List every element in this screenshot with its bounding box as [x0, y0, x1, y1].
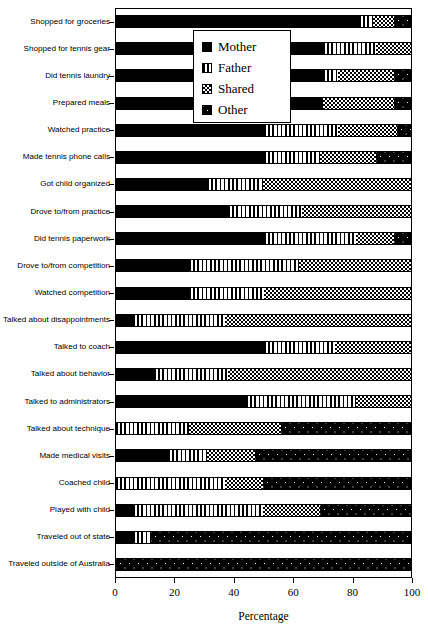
y-axis-tick — [109, 130, 114, 131]
legend-item: Shared — [202, 78, 290, 99]
bar-row — [115, 205, 412, 218]
bar-row — [115, 341, 412, 354]
legend-label: Father — [218, 61, 251, 74]
bar-segment-father — [246, 395, 356, 408]
bar-segment-shared — [356, 232, 395, 245]
y-axis-tick — [109, 76, 114, 77]
legend-swatch-icon — [202, 84, 212, 94]
legend-item: Father — [202, 57, 290, 78]
bar-segment-mother — [115, 395, 246, 408]
bar-segment-father — [168, 449, 207, 462]
bar-segment-shared — [376, 42, 412, 55]
bar-segment-father — [133, 531, 151, 544]
bar-row — [115, 15, 412, 28]
legend-swatch-icon — [202, 42, 212, 52]
x-axis-tick-label: 80 — [347, 586, 358, 598]
y-axis-tick — [109, 483, 114, 484]
bar-row — [115, 477, 412, 490]
category-label: Did tennis laundry — [0, 71, 110, 81]
y-axis-tick — [109, 239, 114, 240]
bar-segment-shared — [373, 15, 394, 28]
category-label: Traveled outside of Australia — [0, 559, 110, 569]
bar-segment-shared — [302, 205, 412, 218]
category-label: Got child organized — [0, 179, 110, 189]
legend-swatch-icon — [202, 105, 212, 115]
bar-segment-shared — [338, 69, 394, 82]
category-label: Talked about technique — [0, 424, 110, 434]
legend-label: Shared — [218, 82, 254, 95]
category-label: Played with child — [0, 505, 110, 515]
bar-row — [115, 151, 412, 164]
y-axis-tick — [109, 103, 114, 104]
bar-segment-mother — [115, 341, 264, 354]
category-label: Prepared meals — [0, 98, 110, 108]
bar-segment-other — [263, 477, 412, 490]
bar-row — [115, 287, 412, 300]
bar-segment-shared — [225, 314, 412, 327]
bar-segment-shared — [299, 259, 412, 272]
bar-segment-father — [323, 69, 338, 82]
y-axis-tick — [109, 184, 114, 185]
y-axis-tick — [109, 429, 114, 430]
legend-label: Mother — [218, 40, 256, 53]
bar-segment-shared — [207, 449, 255, 462]
bar-segment-mother — [115, 151, 264, 164]
bar-segment-other — [115, 558, 412, 571]
bar-row — [115, 178, 412, 191]
x-axis-ticks — [115, 578, 412, 584]
x-axis-tick-label: 60 — [288, 586, 299, 598]
legend-item: Other — [202, 99, 290, 120]
bar-segment-shared — [263, 504, 319, 517]
x-axis-tick — [234, 578, 235, 583]
bar-segment-father — [323, 42, 376, 55]
bar-segment-shared — [335, 341, 412, 354]
bar-segment-father — [133, 314, 225, 327]
y-axis-tick — [109, 347, 114, 348]
category-label: Watched practice — [0, 125, 110, 135]
bar-segment-father — [228, 205, 302, 218]
bar-row — [115, 449, 412, 462]
bar-segment-father — [189, 259, 299, 272]
bar-segment-shared — [356, 395, 412, 408]
y-axis-tick — [109, 320, 114, 321]
x-axis-title: Percentage — [115, 610, 412, 622]
x-axis-tick-labels: 020406080100 — [115, 586, 412, 602]
bar-segment-other — [394, 69, 412, 82]
bar-segment-other — [255, 449, 412, 462]
bar-segment-mother — [115, 15, 359, 28]
bar-row — [115, 504, 412, 517]
bar-segment-other — [394, 97, 412, 110]
bar-segment-mother — [115, 531, 133, 544]
bar-segment-father — [189, 287, 263, 300]
bar-segment-shared — [264, 287, 413, 300]
bar-row — [115, 124, 412, 137]
bar-segment-other — [281, 422, 412, 435]
bar-segment-father — [264, 341, 335, 354]
bar-segment-shared — [320, 151, 376, 164]
x-axis-tick-label: 20 — [169, 586, 180, 598]
bar-segment-mother — [115, 259, 189, 272]
category-label: Shopped for tennis gear — [0, 44, 110, 54]
bar-segment-other — [320, 504, 412, 517]
bar-segment-father — [154, 368, 228, 381]
bar-segment-shared — [263, 178, 412, 191]
legend-item: Mother — [202, 36, 290, 57]
bar-segment-shared — [228, 368, 412, 381]
category-label: Did tennis paperwork — [0, 234, 110, 244]
category-label: Coached child — [0, 478, 110, 488]
category-label: Made medical visits — [0, 451, 110, 461]
x-axis-tick-label: 100 — [404, 586, 421, 598]
y-axis-tick — [109, 22, 114, 23]
legend-swatch-icon — [202, 63, 212, 73]
bar-segment-mother — [115, 205, 228, 218]
y-axis-tick — [109, 212, 114, 213]
bar-segment-other — [397, 124, 412, 137]
category-label: Watched competition — [0, 288, 110, 298]
bar-segment-father — [207, 178, 263, 191]
x-axis-tick — [174, 578, 175, 583]
y-axis-tick — [109, 374, 114, 375]
bar-segment-other — [394, 15, 412, 28]
y-axis-tick — [109, 564, 114, 565]
bar-segment-mother — [115, 449, 168, 462]
x-axis-tick-label: 0 — [112, 586, 118, 598]
